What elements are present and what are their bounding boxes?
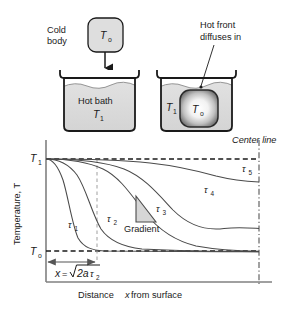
immersed-body-temp-subscript: o — [200, 110, 204, 117]
depth-annotation-equals: = — [62, 269, 67, 279]
depth-annotation-tau-subscript: 2 — [96, 274, 100, 281]
center-line-label: Center line — [232, 135, 276, 145]
left-beaker-label: Hot bath — [78, 96, 113, 106]
curve-label-tau-4-symbol: τ — [204, 184, 209, 195]
temperature-profile-curves — [46, 159, 259, 252]
gradient-triangle-shape — [136, 196, 156, 222]
x-axis-title-var: x — [124, 290, 130, 300]
curve-label-tau-5-subscript: 5 — [249, 169, 253, 176]
curve-label-tau-4-subscript: 4 — [211, 190, 215, 197]
curve-label-tau-5: τ 5 — [242, 163, 253, 176]
curve-label-tau-4: τ 4 — [204, 184, 215, 197]
y-tick-t0: T o — [30, 245, 42, 259]
x-axis-title: Distance x from surface — [78, 290, 182, 300]
heat-diffusion-figure: T o Cold body Hot bath T 1 — [0, 0, 303, 311]
curve-label-tau-3: τ 3 — [156, 203, 167, 216]
cold-body-label-line2: body — [47, 36, 67, 46]
left-beaker-rim — [60, 70, 139, 78]
y-tick-t0-subscript: o — [38, 252, 42, 259]
depth-annotation-var: x — [54, 267, 61, 279]
curve-label-tau-3-symbol: τ — [156, 203, 161, 214]
y-axis-title: Temperature, T — [12, 182, 22, 245]
left-beaker-temp-subscript: 1 — [100, 115, 104, 122]
gradient-label: Gradient — [124, 224, 160, 234]
depth-measurement: x = 2a τ 2 — [48, 262, 100, 281]
y-tick-t1: T 1 — [30, 152, 42, 166]
left-beaker: Hot bath T 1 — [60, 70, 139, 131]
right-beaker: T 1 T o — [157, 70, 236, 131]
curve-label-tau-5-symbol: τ — [242, 163, 247, 174]
hot-front-annotation-line1: Hot front — [200, 20, 236, 30]
immersed-body-rect — [180, 90, 218, 127]
curve-label-tau-2: τ 2 — [107, 213, 118, 226]
depth-annotation-radicand: 2a — [76, 267, 89, 279]
curve-label-tau-2-symbol: τ — [107, 213, 112, 224]
gradient-triangle — [136, 196, 156, 222]
cold-body-box: T o — [88, 18, 123, 52]
y-tick-t1-subscript: 1 — [38, 159, 42, 166]
right-beaker-rim — [157, 70, 236, 78]
figure-canvas: T o Cold body Hot bath T 1 — [0, 0, 303, 311]
hot-front-leader-dot — [199, 85, 202, 88]
curve-tau-1 — [46, 159, 259, 252]
right-beaker-bath-temp-subscript: 1 — [173, 108, 177, 115]
depth-annotation-tau: τ — [90, 268, 95, 279]
cold-body-temp-subscript: o — [108, 36, 112, 43]
x-axis-title-pre: Distance — [78, 290, 114, 300]
curve-label-tau-1-subscript: 1 — [75, 225, 79, 232]
curve-label-tau-2-subscript: 2 — [114, 219, 118, 226]
hot-front-annotation-line2: diffuses in — [200, 32, 241, 42]
cold-body-label-line1: Cold — [47, 25, 66, 35]
y-tick-t0-symbol: T — [30, 245, 38, 257]
curve-tau-5 — [46, 159, 259, 182]
y-tick-t1-symbol: T — [30, 152, 38, 164]
x-axis-title-post: from surface — [131, 290, 182, 300]
curve-label-tau-3-subscript: 3 — [163, 209, 167, 216]
